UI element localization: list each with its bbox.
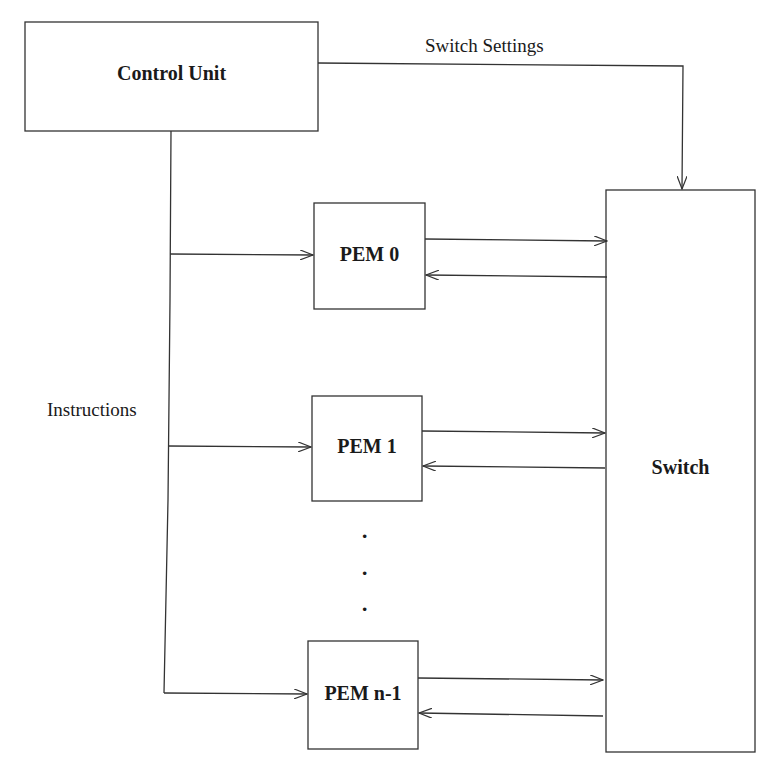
instructions-bus-line [164,131,171,693]
switch-to-pem0-arrow [426,275,607,277]
pemn1-to-switch-arrow [418,678,603,680]
switch-label: Switch [606,456,755,479]
instr-arrow-pem1 [168,446,311,447]
ellipsis-dot-3: · [361,598,368,620]
switch-to-pem1-arrow [423,466,605,468]
switch-settings-arrow [318,63,683,189]
ellipsis-dot-2: · [361,562,368,584]
instructions-label: Instructions [47,399,137,421]
pem1-to-switch-arrow [422,431,605,433]
switch-settings-label: Switch Settings [425,35,544,57]
instr-arrow-pemn1 [164,693,307,694]
diagram-canvas [0,0,775,778]
pem1-label: PEM 1 [312,435,422,458]
pem0-to-switch-arrow [425,239,607,241]
instr-arrow-pem0 [170,254,313,255]
pem0-label: PEM 0 [314,243,425,266]
ellipsis-dot-1: · [361,525,368,547]
pemn1-label: PEM n-1 [308,682,418,705]
switch-to-pemn1-arrow [419,713,603,716]
control-unit-label: Control Unit [25,62,318,85]
